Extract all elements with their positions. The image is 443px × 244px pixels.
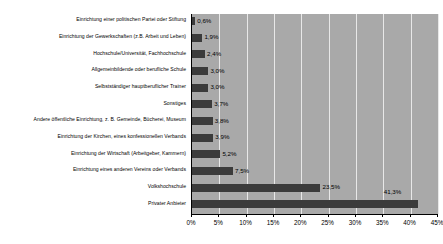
x-tick-mark: [191, 214, 192, 217]
bar-value-label: 3,9%: [215, 131, 229, 143]
bar-row: 0,6%: [192, 14, 438, 31]
bar-value-label: 5,2%: [222, 148, 236, 160]
x-tick-mark: [410, 214, 411, 217]
bar: [192, 117, 213, 125]
bar-row: 5,2%: [192, 147, 438, 164]
bar: [192, 84, 208, 92]
x-tick-label: 30%: [349, 219, 362, 227]
bar: [192, 200, 418, 208]
category-label: Einrichtung der Wirtschaft (Arbeitgeber,…: [0, 150, 186, 156]
category-label: Allgemeinbildende oder berufliche Schule: [0, 66, 186, 72]
x-tick-mark: [437, 214, 438, 217]
bar-row: 2,4%: [192, 47, 438, 64]
x-tick-label: 35%: [376, 219, 389, 227]
bar-value-label: 3,0%: [210, 65, 224, 77]
x-tick-mark: [328, 214, 329, 217]
bar-row: 41,3%: [192, 197, 438, 214]
x-tick-mark: [355, 214, 356, 217]
x-tick-mark: [218, 214, 219, 217]
x-axis-line: [191, 214, 438, 215]
bar: [192, 100, 212, 108]
bar: [192, 150, 220, 158]
category-label: Andere öffentliche Einrichtung, z. B. Ge…: [0, 116, 186, 122]
bar-value-label: 0,6%: [197, 15, 211, 27]
bar-value-label: 7,5%: [235, 165, 249, 177]
x-tick-label: 45%: [431, 219, 443, 227]
x-tick-label: 10%: [239, 219, 252, 227]
x-tick-mark: [382, 214, 383, 217]
bar: [192, 34, 202, 42]
bar-row: 3,8%: [192, 114, 438, 131]
bar-value-label: 3,8%: [215, 115, 229, 127]
bar-row: 3,7%: [192, 97, 438, 114]
bar-value-label: 23,5%: [322, 181, 340, 193]
bar-row: 3,9%: [192, 131, 438, 148]
category-label: Einrichtung eines anderen Vereins oder V…: [0, 166, 186, 172]
bar-value-label: 2,4%: [207, 48, 221, 60]
x-tick-mark: [246, 214, 247, 217]
category-label: Einrichtung der Kirchen, eines konfessio…: [0, 133, 186, 139]
category-label: Selbstständiger hauptberuflicher Trainer: [0, 83, 186, 89]
x-tick-mark: [273, 214, 274, 217]
bar-chart: Einrichtung einer politischen Partei ode…: [0, 0, 443, 244]
bar-value-label: 1,9%: [204, 31, 218, 43]
bar: [192, 184, 320, 192]
x-tick-label: 0%: [186, 219, 195, 227]
bar-row: 7,5%: [192, 164, 438, 181]
x-tick-label: 5%: [214, 219, 223, 227]
x-tick-label: 15%: [267, 219, 280, 227]
bar: [192, 134, 213, 142]
bar: [192, 67, 208, 75]
category-label: Einrichtung einer politischen Partei ode…: [0, 16, 186, 22]
bar-row: 3,0%: [192, 81, 438, 98]
category-label: Hochschule/Universität, Fachhochschule: [0, 50, 186, 56]
x-tick-mark: [300, 214, 301, 217]
x-tick-label: 25%: [321, 219, 334, 227]
x-tick-label: 20%: [294, 219, 307, 227]
category-label: Privater Anbieter: [0, 200, 186, 206]
bar-row: 1,9%: [192, 31, 438, 48]
category-label: Volkshochschule: [0, 183, 186, 189]
bar: [192, 50, 205, 58]
gridline: [438, 14, 439, 214]
bar-row: 3,0%: [192, 64, 438, 81]
bar-value-label: 41,3%: [384, 186, 402, 198]
category-label: Einrichtung der Gewerkschaften (z.B. Arb…: [0, 33, 186, 39]
bar: [192, 167, 233, 175]
category-label: Sonstiges: [0, 100, 186, 106]
x-tick-label: 40%: [403, 219, 416, 227]
bar-value-label: 3,7%: [214, 98, 228, 110]
plot-area: 0,6%1,9%2,4%3,0%3,0%3,7%3,8%3,9%5,2%7,5%…: [191, 14, 438, 214]
category-axis: Einrichtung einer politischen Partei ode…: [0, 14, 189, 214]
bar: [192, 17, 195, 25]
bar-value-label: 3,0%: [210, 81, 224, 93]
